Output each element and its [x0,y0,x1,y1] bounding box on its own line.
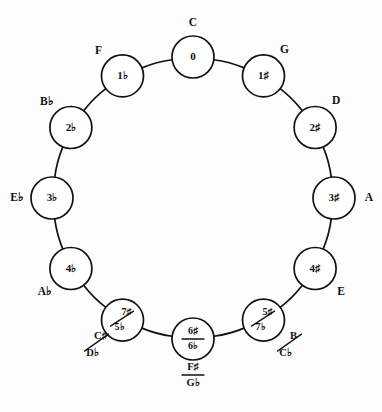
key-node-fs-gb[interactable]: 6♯6♭ [172,318,214,360]
arc-b-cb-to-fs-gb [214,328,244,336]
node-accidentals-c: 0 [190,50,196,62]
key-label-c: C [189,16,197,28]
key-label-f: F [95,44,102,56]
key-label-d: D [332,94,340,106]
circle-of-fifths-canvas: 01♯2♯3♯4♯5♯7♭6♯6♭7♯5♭4♭3♭2♭1♭ CGDAEBC♭F♯… [0,0,382,412]
key-node-e[interactable]: 4♯ [294,248,336,290]
key-label-fs-gb: F♯G♭ [182,361,204,388]
key-label-g: G [280,43,289,55]
key-node-g[interactable]: 1♯ [243,55,285,97]
node-accidentals-ab: 4♭ [66,262,77,274]
node-circle-b-cb [243,299,285,341]
key-label-e: E [337,285,345,297]
key-label-cs-db: C♯D♭ [85,330,109,358]
key-label-ab: A♭ [38,285,52,297]
node-accidentals-flat-b-cb: 7♭ [256,321,266,332]
key-label-eb: E♭ [10,191,24,203]
arc-ab-to-eb [55,219,63,249]
node-accidentals-g: 1♯ [258,69,270,81]
node-accidentals-d: 2♯ [310,121,322,133]
arc-eb-to-bb [55,147,63,177]
arc-cs-db-to-ab [84,285,106,307]
key-node-a[interactable]: 3♯ [313,177,355,219]
key-node-c[interactable]: 0 [172,36,214,78]
key-label-text-bb: B♭ [40,95,54,107]
key-label-b-cb: BC♭ [278,330,302,358]
node-accidentals-eb: 3♭ [47,191,58,203]
key-node-f[interactable]: 1♭ [102,55,144,97]
node-accidentals-flat-fs-gb: 6♭ [188,340,198,351]
key-node-b-cb[interactable]: 5♯7♭ [243,299,285,341]
key-label-text-flat-b-cb: C♭ [279,347,292,358]
key-label-text-f: F [95,44,102,56]
node-accidentals-bb: 2♭ [66,121,77,133]
key-node-d[interactable]: 2♯ [294,107,336,149]
arc-a-to-e [323,219,331,249]
circle-of-fifths-diagram: 01♯2♯3♯4♯5♯7♭6♯6♭7♯5♭4♭3♭2♭1♭ CGDAEBC♭F♯… [0,0,382,412]
arc-g-to-d [280,89,302,111]
arc-fs-gb-to-cs-db [142,328,172,336]
node-accidentals-e: 4♯ [310,262,322,274]
arc-bb-to-f [84,89,106,111]
key-label-text-flat-fs-gb: G♭ [186,377,199,388]
key-node-bb[interactable]: 2♭ [50,107,92,149]
key-nodes-layer: 01♯2♯3♯4♯5♯7♭6♯6♭7♯5♭4♭3♭2♭1♭ [31,36,355,360]
arc-c-to-g [214,60,244,68]
node-accidentals-a: 3♯ [329,191,341,203]
arc-f-to-c [142,60,172,68]
key-label-text-sharp-fs-gb: F♯ [187,361,199,372]
key-node-ab[interactable]: 4♭ [50,248,92,290]
node-accidentals-f: 1♭ [117,69,128,81]
key-label-a: A [365,191,374,203]
key-label-text-ab: A♭ [38,285,52,297]
node-accidentals-flat-cs-db: 5♭ [115,321,125,332]
connector-arcs-layer [55,60,332,337]
key-label-text-e: E [337,285,345,297]
arc-d-to-a [323,147,331,177]
key-label-text-eb: E♭ [10,191,24,203]
arc-e-to-b-cb [280,285,302,307]
key-label-text-c: C [189,16,197,28]
key-label-bb: B♭ [40,95,54,107]
node-accidentals-sharp-fs-gb: 6♯ [188,325,198,336]
key-label-text-g: G [280,43,289,55]
key-label-text-flat-cs-db: D♭ [86,347,99,358]
key-label-text-a: A [365,191,374,203]
key-node-eb[interactable]: 3♭ [31,177,73,219]
key-label-text-sharp-b-cb: B [290,330,297,341]
key-label-text-d: D [332,94,340,106]
